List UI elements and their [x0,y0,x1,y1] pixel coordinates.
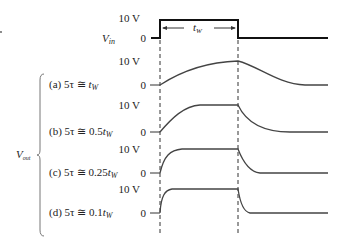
vin-0-label: 0 [141,32,147,44]
row-b-output-waveform [160,105,328,132]
row-d-10v-label: 10 V [119,183,141,195]
tw-arrowhead-right [231,26,236,30]
stray-mark [0,31,2,33]
vin-row: Vin 10 V 0 tW [102,12,328,46]
vin-label: Vin [102,32,115,46]
row-a-10v-label: 10 V [119,55,141,67]
row-a-output-waveform [160,61,328,85]
row-b-caption: (b) 5τ ≅ 0.5tW [49,125,114,139]
row-c-0-label: 0 [141,167,147,179]
row-d: 10 V 0 (d) 5τ ≅ 0.1tW [49,183,328,220]
row-c-output-waveform [160,149,328,173]
row-a-caption: (a) 5τ ≅ tW [49,78,99,92]
rc-integrator-pulse-response-diagram: Vin 10 V 0 tW Vout 10 V 0 (a) 5τ ≅ tW 10… [0,0,347,247]
tw-arrowhead-left [162,26,167,30]
row-b-10v-label: 10 V [119,99,141,111]
vout-brace [37,74,44,236]
row-b-0-label: 0 [141,126,147,138]
row-d-0-label: 0 [141,207,147,219]
row-a-0-label: 0 [141,79,147,91]
row-c-10v-label: 10 V [119,143,141,155]
tw-label: tW [193,21,203,35]
input-pulse-waveform [151,20,328,38]
row-c: 10 V 0 (c) 5τ ≅ 0.25tW [49,143,328,180]
row-d-caption: (d) 5τ ≅ 0.1tW [49,206,114,220]
vout-label: Vout [16,148,31,161]
row-c-caption: (c) 5τ ≅ 0.25tW [49,166,119,180]
row-a: 10 V 0 (a) 5τ ≅ tW [49,55,328,92]
row-d-output-waveform [160,189,328,213]
vin-10v-label: 10 V [119,12,141,24]
row-b: 10 V 0 (b) 5τ ≅ 0.5tW [49,99,328,139]
